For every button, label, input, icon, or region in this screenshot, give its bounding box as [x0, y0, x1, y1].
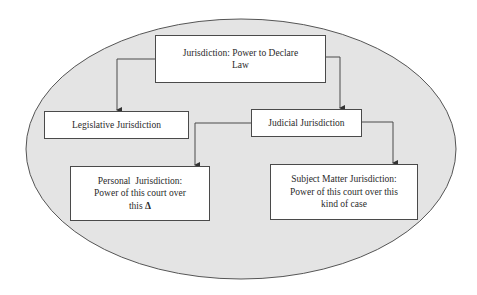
node-personal-line-3-text: this [129, 201, 143, 211]
node-root-line-1: Jurisdiction: Power to Declare [183, 47, 298, 60]
node-judicial-jurisdiction: Judicial Jurisdiction [251, 109, 362, 137]
node-personal-line-2: Power of this court over [94, 187, 186, 200]
node-subject-line-1: Subject Matter Jurisdiction: [290, 173, 398, 186]
node-subject-line-3: kind of case [290, 198, 398, 211]
node-jurisdiction-root: Jurisdiction: Power to Declare Law [155, 35, 326, 83]
node-legislative-label: Legislative Jurisdiction [72, 119, 161, 132]
node-subject-matter-jurisdiction: Subject Matter Jurisdiction: Power of th… [270, 164, 418, 220]
node-subject-line-2: Power of this court over this [290, 186, 398, 199]
node-personal-jurisdiction: Personal Jurisdiction: Power of this cou… [70, 166, 210, 221]
node-legislative-jurisdiction: Legislative Jurisdiction [44, 111, 189, 139]
node-personal-line-1: Personal Jurisdiction: [94, 175, 186, 188]
node-judicial-label: Judicial Jurisdiction [268, 117, 344, 130]
delta-defendant-symbol: Δ [145, 201, 151, 211]
node-root-line-2: Law [183, 59, 298, 72]
node-personal-line-3: this Δ [94, 200, 186, 213]
